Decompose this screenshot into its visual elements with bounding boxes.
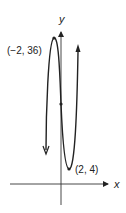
local-max-point (52, 36, 55, 39)
cubic-function-graph: y x (−2, 36) (2, 4) (0, 0, 126, 213)
right-end-arrow-icon (76, 44, 81, 52)
min-point-label: (2, 4) (75, 164, 98, 175)
y-axis-label: y (58, 13, 66, 25)
x-axis-label: x (113, 178, 120, 190)
inflection-point (59, 102, 62, 105)
local-min-point (67, 167, 70, 170)
max-point-label: (−2, 36) (7, 45, 42, 56)
